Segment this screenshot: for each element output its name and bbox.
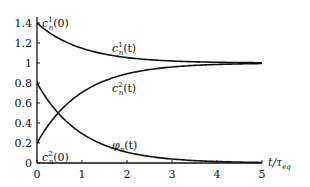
y-tick-label: 0.8 bbox=[15, 77, 33, 90]
label-phi-t: φn(t) bbox=[112, 139, 137, 154]
x-axis-label: t/τeq bbox=[268, 156, 291, 171]
y-tick-label: 1.4 bbox=[15, 17, 33, 30]
axes bbox=[37, 17, 262, 163]
y-tick-label: 1.2 bbox=[15, 37, 33, 50]
x-tick-label: 3 bbox=[169, 168, 176, 181]
y-tick-label: 0 bbox=[25, 157, 32, 170]
line-chart: 012345 00.20.40.60.811.21.4 c1n(0) c2n(0… bbox=[0, 0, 310, 187]
y-tick-label: 0.4 bbox=[15, 117, 33, 130]
curves bbox=[37, 23, 262, 162]
x-tick-label: 2 bbox=[124, 168, 131, 181]
label-c2-0: c2n(0) bbox=[42, 150, 69, 166]
label-c1-t: c1n(t) bbox=[112, 41, 136, 57]
y-ticks: 00.20.40.60.811.21.4 bbox=[15, 17, 41, 170]
x-tick-label: 1 bbox=[79, 168, 86, 181]
x-tick-label: 5 bbox=[259, 168, 266, 181]
y-tick-label: 0.2 bbox=[15, 137, 33, 150]
label-c2-t: c2n(t) bbox=[112, 81, 136, 97]
y-tick-label: 0.6 bbox=[15, 97, 33, 110]
label-c1-0: c1n(0) bbox=[42, 16, 69, 32]
y-tick-label: 1 bbox=[25, 57, 32, 70]
x-tick-label: 0 bbox=[34, 168, 41, 181]
series-line bbox=[37, 23, 262, 63]
series-line bbox=[37, 64, 262, 143]
series-line bbox=[37, 83, 262, 162]
x-tick-label: 4 bbox=[214, 168, 221, 181]
